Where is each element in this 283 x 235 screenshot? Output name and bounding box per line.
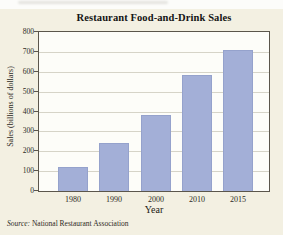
chart-card: Restaurant Food-and-Drink Sales Sales (b… bbox=[0, 9, 283, 235]
x-axis-title: Year bbox=[38, 204, 270, 215]
x-tick-label-1990: 1990 bbox=[94, 195, 134, 204]
cropped-page-artifact bbox=[18, 1, 168, 4]
bar-1980 bbox=[58, 167, 88, 191]
y-tick-label-200: 200 bbox=[4, 146, 34, 155]
bar-2010 bbox=[182, 75, 212, 191]
y-tick-label-500: 500 bbox=[4, 87, 34, 96]
x-tick-label-1980: 1980 bbox=[53, 195, 93, 204]
y-tick-mark-0 bbox=[34, 190, 38, 191]
chart-title: Restaurant Food-and-Drink Sales bbox=[30, 12, 278, 23]
bar-1990 bbox=[99, 143, 129, 191]
figure: Restaurant Food-and-Drink Sales Sales (b… bbox=[0, 0, 283, 235]
y-tick-label-700: 700 bbox=[4, 47, 34, 56]
y-tick-label-0: 0 bbox=[4, 186, 34, 195]
bar-2000 bbox=[141, 115, 171, 191]
plot-area bbox=[38, 31, 270, 192]
y-tick-mark-100 bbox=[34, 170, 38, 171]
bar-2015 bbox=[223, 50, 253, 191]
y-tick-label-600: 600 bbox=[4, 67, 34, 76]
x-tick-label-2000: 2000 bbox=[136, 195, 176, 204]
y-tick-mark-200 bbox=[34, 150, 38, 151]
y-tick-label-400: 400 bbox=[4, 107, 34, 116]
source-text: National Restaurant Association bbox=[30, 219, 129, 228]
y-tick-mark-800 bbox=[34, 31, 38, 32]
y-tick-mark-500 bbox=[34, 91, 38, 92]
y-tick-label-100: 100 bbox=[4, 166, 34, 175]
x-tick-label-2010: 2010 bbox=[177, 195, 217, 204]
y-tick-label-300: 300 bbox=[4, 126, 34, 135]
y-tick-mark-400 bbox=[34, 111, 38, 112]
x-tick-label-2015: 2015 bbox=[218, 195, 258, 204]
y-tick-mark-300 bbox=[34, 130, 38, 131]
y-tick-label-800: 800 bbox=[4, 27, 34, 36]
source-line: Source: National Restaurant Association bbox=[7, 219, 277, 228]
y-tick-mark-600 bbox=[34, 71, 38, 72]
y-tick-mark-700 bbox=[34, 51, 38, 52]
source-prefix: Source: bbox=[7, 219, 30, 228]
